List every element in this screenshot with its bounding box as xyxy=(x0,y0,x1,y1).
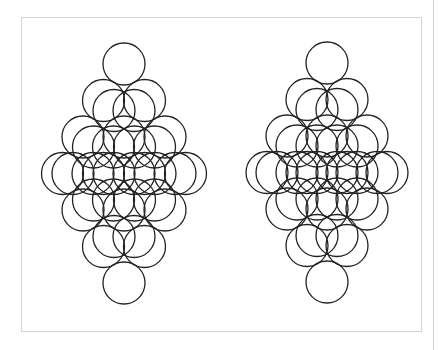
outer-circle xyxy=(83,80,125,122)
inner-circle xyxy=(154,153,196,195)
inner-circle xyxy=(336,178,378,220)
outer-circle xyxy=(62,116,104,158)
outer-circle xyxy=(306,115,348,157)
inner-circle xyxy=(113,216,155,258)
inner-circle xyxy=(316,152,358,194)
inner-circle xyxy=(276,152,318,194)
outer-circle xyxy=(144,116,186,158)
inner-circle xyxy=(93,216,135,258)
outer-circle xyxy=(124,80,166,122)
outer-circle xyxy=(103,262,145,304)
inner-circle xyxy=(73,126,115,168)
outer-circle xyxy=(346,188,388,230)
outer-circle xyxy=(286,225,328,267)
inner-circle xyxy=(296,152,338,194)
outer-circle xyxy=(306,42,348,84)
inner-circle xyxy=(73,179,115,221)
outer-circle xyxy=(266,188,308,230)
outer-circle xyxy=(326,225,368,267)
outer-circle xyxy=(62,189,104,231)
inner-circle xyxy=(52,153,94,195)
inner-circle xyxy=(336,125,378,167)
outer-circle xyxy=(103,43,145,85)
inner-circle xyxy=(113,90,155,132)
inner-circle xyxy=(93,90,135,132)
outer-circle xyxy=(326,79,368,121)
inner-circle xyxy=(316,215,358,257)
outer-circle xyxy=(83,226,125,268)
inner-circle xyxy=(256,152,298,194)
outer-circle xyxy=(103,189,145,231)
outer-circle xyxy=(144,189,186,231)
outer-circle xyxy=(266,115,308,157)
inner-circle xyxy=(356,152,398,194)
inner-circle xyxy=(296,215,338,257)
outer-circle xyxy=(286,79,328,121)
right-circle-diamond xyxy=(246,42,408,303)
outer-circle xyxy=(306,261,348,303)
inner-circle xyxy=(296,178,338,220)
inner-circle xyxy=(276,178,318,220)
inner-circle xyxy=(276,125,318,167)
inner-circle xyxy=(296,125,338,167)
inner-circle xyxy=(316,178,358,220)
inner-circle xyxy=(296,89,338,131)
circles-diagram xyxy=(0,0,438,350)
inner-circle xyxy=(316,125,358,167)
inner-circle xyxy=(316,89,358,131)
inner-circle xyxy=(134,126,176,168)
inner-circle xyxy=(134,179,176,221)
left-circle-diamond xyxy=(42,43,207,304)
inner-circle xyxy=(336,152,378,194)
outer-circle xyxy=(346,115,388,157)
outer-circle xyxy=(103,116,145,158)
outer-circle xyxy=(124,226,166,268)
outer-circle xyxy=(306,188,348,230)
